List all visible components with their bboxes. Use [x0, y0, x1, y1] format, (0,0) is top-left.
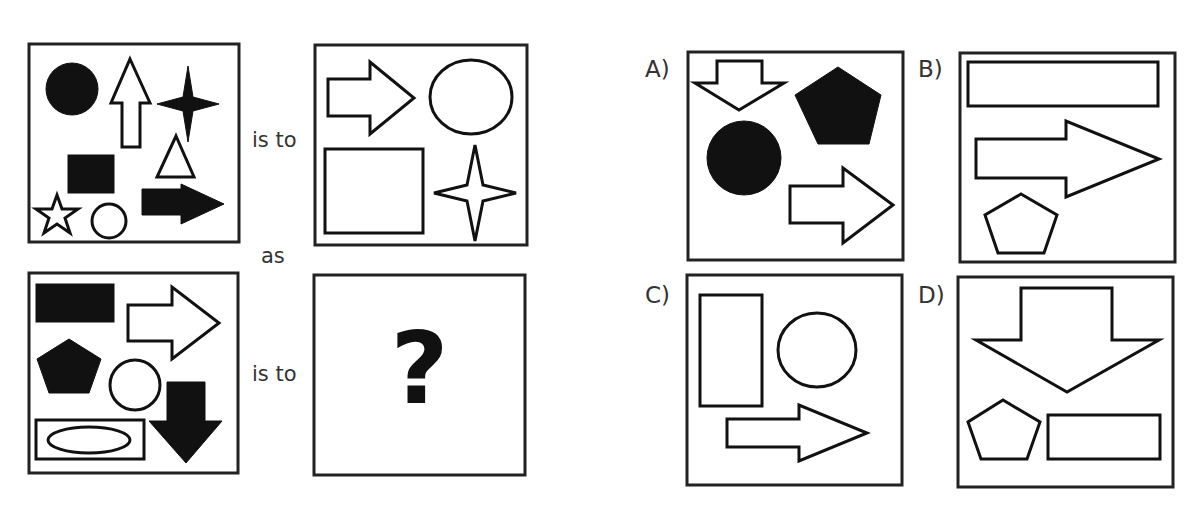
- option-a[interactable]: [688, 52, 903, 260]
- question-mark: ?: [314, 310, 525, 427]
- ellipse-icon: [48, 427, 130, 453]
- filled-square-icon: [68, 155, 114, 193]
- square-icon: [325, 149, 423, 233]
- rectangle-icon: [700, 295, 762, 406]
- circle-icon: [92, 204, 126, 238]
- option-d-label[interactable]: D): [918, 282, 945, 308]
- filled-circle-icon: [707, 121, 781, 195]
- filled-rectangle-icon: [36, 284, 114, 322]
- panel-top-right: [315, 45, 527, 245]
- option-c-label[interactable]: C): [645, 282, 670, 308]
- option-d[interactable]: [958, 277, 1173, 487]
- circle-icon: [110, 360, 160, 410]
- rectangle-icon: [968, 62, 1158, 106]
- option-c[interactable]: [687, 275, 902, 485]
- option-b-label[interactable]: B): [918, 56, 943, 82]
- panel-bottom-left: [29, 273, 238, 473]
- connector-is-to-top: is to: [252, 128, 297, 152]
- connector-is-to-bottom: is to: [252, 362, 297, 386]
- filled-circle-icon: [46, 63, 98, 115]
- option-b[interactable]: [960, 53, 1175, 262]
- option-a-label[interactable]: A): [645, 56, 670, 82]
- circle-icon: [778, 313, 856, 387]
- rectangle-icon: [1048, 415, 1160, 459]
- panel-top-left: [29, 44, 239, 242]
- circle-icon: [430, 60, 512, 134]
- puzzle-canvas: [0, 0, 1199, 505]
- connector-as: as: [261, 244, 285, 268]
